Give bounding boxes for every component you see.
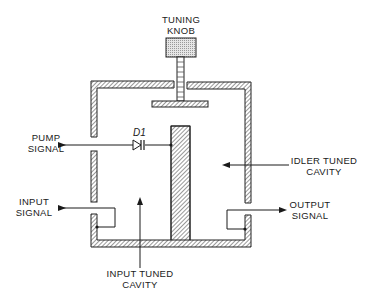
tuning-shaft [177,57,184,101]
diode-d1: D1 [133,127,146,150]
svg-text:INPUT TUNED: INPUT TUNED [107,268,174,279]
tuning-plate [152,101,208,107]
svg-text:CAVITY: CAVITY [122,279,158,290]
svg-text:CAVITY: CAVITY [306,166,342,177]
output-signal-label: OUTPUT SIGNAL [290,199,331,221]
tuning-knob-label: TUNING KNOB [162,14,200,36]
input-signal-label: INPUT SIGNAL [16,196,53,218]
svg-text:KNOB: KNOB [167,25,195,36]
svg-text:TUNING: TUNING [162,14,200,25]
input-coupling-loop [58,205,115,229]
output-coupling-loop [227,207,287,231]
svg-text:IDLER TUNED: IDLER TUNED [291,155,357,166]
pump-signal-wire [58,142,173,148]
idler-cavity-label: IDLER TUNED CAVITY [222,155,357,177]
svg-text:PUMP: PUMP [32,132,61,143]
svg-text:INPUT: INPUT [19,196,49,207]
diode-label: D1 [133,127,146,138]
svg-text:OUTPUT: OUTPUT [290,199,331,210]
svg-text:SIGNAL: SIGNAL [16,207,53,218]
parametric-amplifier-diagram: TUNING KNOB PUMP SIGNAL [0,0,370,302]
tuning-knob [166,38,196,57]
svg-text:SIGNAL: SIGNAL [292,210,329,221]
